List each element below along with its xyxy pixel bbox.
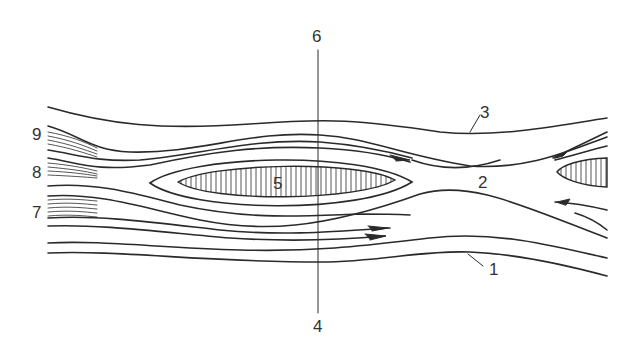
label-7: 7 bbox=[32, 204, 41, 221]
streamline-diagram bbox=[0, 0, 638, 355]
label-8: 8 bbox=[32, 164, 41, 181]
label-4: 4 bbox=[313, 318, 322, 335]
streamline-2-lower bbox=[48, 190, 607, 238]
streamline-1 bbox=[48, 252, 607, 276]
label-1: 1 bbox=[489, 261, 498, 278]
island-5 bbox=[178, 166, 395, 196]
label-2: 2 bbox=[478, 174, 487, 191]
label-6: 6 bbox=[312, 28, 321, 45]
streamline-3 bbox=[48, 107, 607, 134]
label-9: 9 bbox=[32, 126, 41, 143]
label-5: 5 bbox=[273, 175, 282, 192]
label-3: 3 bbox=[480, 104, 489, 121]
island-right bbox=[557, 158, 607, 187]
